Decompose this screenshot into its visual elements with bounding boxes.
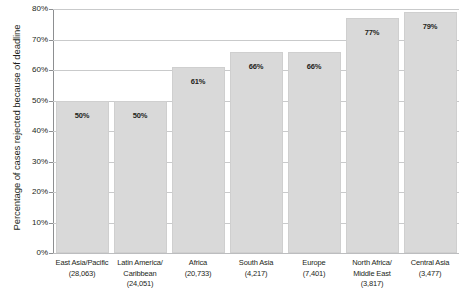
bar: 79% — [404, 12, 457, 253]
bar-value-label: 79% — [405, 22, 456, 31]
x-axis-label-line: East Asia/Pacific — [53, 258, 111, 269]
x-axis-label: Latin America/Caribbean (24,051) — [111, 258, 169, 290]
x-axis-label-line: Central Asia — [401, 258, 459, 269]
bar-chart: Percentage of cases rejected because of … — [0, 0, 466, 294]
y-tick-label: 10% — [8, 218, 48, 227]
x-axis-label-line: Middle East (3,817) — [343, 269, 401, 290]
bar-value-label: 50% — [57, 111, 108, 120]
x-axis-label-line: (7,401) — [285, 269, 343, 280]
bar: 66% — [288, 52, 341, 253]
bar-value-label: 66% — [231, 62, 282, 71]
y-tick-label: 50% — [8, 96, 48, 105]
bar-value-label: 77% — [347, 28, 398, 37]
x-axis-label: Europe(7,401) — [285, 258, 343, 279]
bar: 66% — [230, 52, 283, 253]
x-axis-label-line: Europe — [285, 258, 343, 269]
y-tick-label: 70% — [8, 35, 48, 44]
x-axis-label: North Africa/Middle East (3,817) — [343, 258, 401, 290]
x-axis-label-line: South Asia — [227, 258, 285, 269]
bar: 77% — [346, 18, 399, 253]
x-axis-label-line: (4,217) — [227, 269, 285, 280]
x-axis-label: Africa(20,733) — [169, 258, 227, 279]
gridline — [53, 253, 459, 254]
y-tick-label: 80% — [8, 4, 48, 13]
y-tick-label: 20% — [8, 187, 48, 196]
bar: 50% — [114, 101, 167, 254]
bar-value-label: 50% — [115, 111, 166, 120]
x-axis-label: Central Asia(3,477) — [401, 258, 459, 279]
x-axis-label: South Asia(4,217) — [227, 258, 285, 279]
y-tick-label: 60% — [8, 65, 48, 74]
y-tick-label: 0% — [8, 248, 48, 257]
y-tick-label: 30% — [8, 157, 48, 166]
bar: 50% — [56, 101, 109, 254]
x-axis-label-line: (3,477) — [401, 269, 459, 280]
bar-value-label: 66% — [289, 62, 340, 71]
x-axis-label-line: Caribbean (24,051) — [111, 269, 169, 290]
plot-area: 50%50%61%66%66%77%79% — [53, 9, 459, 253]
x-axis-label-line: (20,733) — [169, 269, 227, 280]
x-axis-label: East Asia/Pacific(28,063) — [53, 258, 111, 279]
bar-value-label: 61% — [173, 77, 224, 86]
x-axis-label-line: Latin America/ — [111, 258, 169, 269]
y-tick-label: 40% — [8, 126, 48, 135]
bar: 61% — [172, 67, 225, 253]
gridline — [53, 9, 459, 10]
x-axis-label-line: (28,063) — [53, 269, 111, 280]
x-axis-label-line: Africa — [169, 258, 227, 269]
x-axis-label-line: North Africa/ — [343, 258, 401, 269]
